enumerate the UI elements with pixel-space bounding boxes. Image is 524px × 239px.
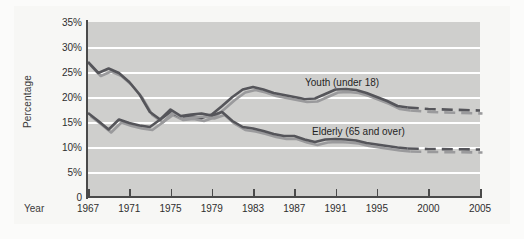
series-youth-forecast (410, 111, 482, 114)
series-lines (88, 22, 480, 197)
x-tick-mark (253, 189, 255, 198)
chart-figure: Percentage Year 35% 30% 25% 20% 15% 10% … (0, 0, 524, 239)
y-tick-label: 0 (40, 192, 82, 203)
x-tick-mark (129, 189, 131, 198)
x-tick-mark (377, 189, 379, 198)
y-tick-label: 25% (40, 67, 82, 78)
x-tick-label: 1967 (77, 203, 99, 214)
y-tick-label: 10% (40, 142, 82, 153)
x-tick-mark (212, 189, 214, 198)
y-tick-label: 20% (40, 92, 82, 103)
x-tick-label: 2005 (469, 203, 491, 214)
x-tick-label: 1983 (242, 203, 264, 214)
y-tick-label: 30% (40, 42, 82, 53)
x-tick-label: 1975 (159, 203, 181, 214)
x-tick-label: 1995 (366, 203, 388, 214)
y-axis-title: Percentage (22, 57, 33, 147)
series-label-elderly: Elderly (65 and over) (312, 126, 405, 137)
x-tick-mark (336, 189, 338, 198)
series-label-youth: Youth (under 18) (305, 77, 379, 88)
x-tick-label: 2000 (417, 203, 439, 214)
x-tick-mark (428, 189, 430, 198)
x-tick-mark (171, 189, 173, 198)
x-tick-label: 1979 (201, 203, 223, 214)
y-axis-tick-labels: 35% 30% 25% 20% 15% 10% 5% 0 (38, 0, 82, 239)
y-tick-label: 5% (40, 167, 82, 178)
y-tick-label: 15% (40, 117, 82, 128)
series-elderly-forecast (410, 152, 482, 153)
series-elderly-forecast (408, 149, 480, 150)
y-tick-label: 35% (40, 17, 82, 28)
x-tick-label: 1991 (324, 203, 346, 214)
x-axis-line (86, 196, 482, 198)
plot-area (88, 22, 480, 197)
x-tick-mark (88, 189, 90, 198)
x-tick-mark (480, 189, 482, 198)
x-tick-mark (294, 189, 296, 198)
y-axis-line (86, 20, 88, 199)
x-tick-label: 1987 (283, 203, 305, 214)
x-tick-label: 1971 (118, 203, 140, 214)
